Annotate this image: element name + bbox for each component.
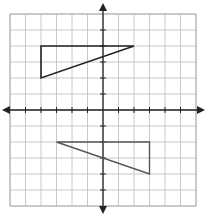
axes [4, 5, 203, 212]
y-axis-up-arrow-icon [99, 3, 107, 11]
coordinate-plane [0, 0, 207, 216]
coordinate-grid-figure [0, 0, 207, 216]
x-axis-right-arrow-icon [197, 106, 205, 114]
x-axis-left-arrow-icon [2, 106, 10, 114]
y-axis-down-arrow-icon [99, 206, 107, 214]
